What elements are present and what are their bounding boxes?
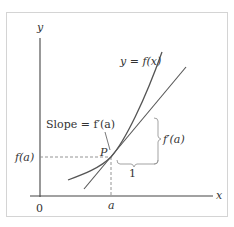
rise-label: f′(a) — [163, 134, 185, 145]
f-of-a-label: f(a) — [15, 152, 34, 163]
a-label: a — [108, 200, 115, 211]
diagram-canvas — [0, 0, 234, 227]
rise-bracket — [154, 118, 161, 164]
curve-label: y = f(x) — [120, 56, 161, 67]
run-label: 1 — [129, 168, 136, 179]
run-bracket — [117, 160, 158, 167]
point-p-label: P — [100, 147, 107, 158]
x-axis-label: x — [216, 190, 222, 201]
curve-f — [68, 52, 162, 180]
y-axis-label: y — [37, 22, 43, 33]
slope-label: Slope = f′(a) — [46, 119, 115, 130]
origin-label: 0 — [36, 203, 43, 214]
